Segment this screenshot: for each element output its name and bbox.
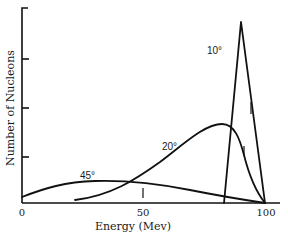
curve-label-10: 10° — [207, 45, 222, 56]
axes — [22, 8, 280, 203]
curve-label-45: 45° — [80, 170, 95, 181]
x-tick-label-0: 0 — [19, 207, 25, 218]
x-tick-label-100: 100 — [256, 207, 275, 218]
x-tick-label-50: 50 — [137, 207, 150, 218]
y-axis-label: Number of Nucleons — [4, 50, 17, 166]
curve-10-deg — [224, 22, 265, 203]
energy-spectrum-chart: 0 50 100 Energy (Mev) Number of Nucleons… — [0, 0, 288, 237]
curve-20-deg — [75, 124, 265, 203]
x-axis-label: Energy (Mev) — [95, 220, 171, 233]
curve-label-20: 20° — [162, 141, 177, 152]
y-axis — [22, 8, 28, 203]
